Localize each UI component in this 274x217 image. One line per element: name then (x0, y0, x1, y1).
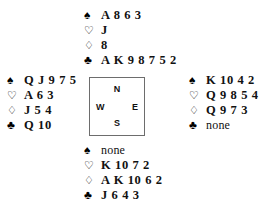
heart-icon: ♡ (7, 88, 20, 103)
west-clubs-cards: Q 10 (20, 118, 52, 133)
west-spades-cards: Q J 9 7 5 (20, 73, 77, 88)
diamond-icon: ♢ (84, 173, 97, 188)
hand-east: ♠ K 10 4 2 ♡ Q 9 8 5 4 ♢ Q 9 7 3 ♣ none (189, 73, 259, 133)
west-hearts-cards: A 6 3 (20, 88, 54, 103)
south-diamonds-cards: A K 10 6 2 (97, 173, 163, 188)
south-diamonds-row: ♢ A K 10 6 2 (84, 173, 163, 188)
east-diamonds-row: ♢ Q 9 7 3 (189, 103, 259, 118)
north-hearts-cards: J (97, 23, 108, 38)
hand-north: ♠ A 8 6 3 ♡ J ♢ 8 ♣ A K 9 8 7 5 2 (84, 8, 177, 68)
diamond-icon: ♢ (7, 103, 20, 118)
club-icon: ♣ (189, 118, 202, 133)
east-spades-cards: K 10 4 2 (202, 73, 255, 88)
heart-icon: ♡ (189, 88, 202, 103)
compass-label-north: N (114, 85, 121, 94)
east-clubs-cards: none (202, 118, 230, 133)
spade-icon: ♠ (84, 143, 97, 158)
heart-icon: ♡ (84, 23, 97, 38)
west-hearts-row: ♡ A 6 3 (7, 88, 77, 103)
east-hearts-cards: Q 9 8 5 4 (202, 88, 259, 103)
club-icon: ♣ (7, 118, 20, 133)
east-diamonds-cards: Q 9 7 3 (202, 103, 248, 118)
west-diamonds-cards: J 5 4 (20, 103, 52, 118)
north-clubs-cards: A K 9 8 7 5 2 (97, 53, 177, 68)
north-spades-row: ♠ A 8 6 3 (84, 8, 177, 23)
spade-icon: ♠ (84, 8, 97, 23)
east-clubs-row: ♣ none (189, 118, 259, 133)
compass-label-south: S (114, 119, 120, 128)
club-icon: ♣ (84, 53, 97, 68)
hand-west: ♠ Q J 9 7 5 ♡ A 6 3 ♢ J 5 4 ♣ Q 10 (7, 73, 77, 133)
spade-icon: ♠ (189, 73, 202, 88)
diamond-icon: ♢ (189, 103, 202, 118)
north-spades-cards: A 8 6 3 (97, 8, 142, 23)
club-icon: ♣ (84, 188, 97, 203)
south-spades-cards: none (97, 143, 125, 158)
bridge-hand-diagram: { "diagram": { "title": "Bridge deal dia… (0, 0, 274, 217)
north-hearts-row: ♡ J (84, 23, 177, 38)
west-clubs-row: ♣ Q 10 (7, 118, 77, 133)
north-clubs-row: ♣ A K 9 8 7 5 2 (84, 53, 177, 68)
south-clubs-row: ♣ J 6 4 3 (84, 188, 163, 203)
west-diamonds-row: ♢ J 5 4 (7, 103, 77, 118)
compass-box: N W E S (89, 77, 145, 136)
north-diamonds-row: ♢ 8 (84, 38, 177, 53)
heart-icon: ♡ (84, 158, 97, 173)
south-clubs-cards: J 6 4 3 (97, 188, 140, 203)
east-hearts-row: ♡ Q 9 8 5 4 (189, 88, 259, 103)
west-spades-row: ♠ Q J 9 7 5 (7, 73, 77, 88)
north-diamonds-cards: 8 (97, 38, 108, 53)
diamond-icon: ♢ (84, 38, 97, 53)
spade-icon: ♠ (7, 73, 20, 88)
south-spades-row: ♠ none (84, 143, 163, 158)
east-spades-row: ♠ K 10 4 2 (189, 73, 259, 88)
hand-south: ♠ none ♡ K 10 7 2 ♢ A K 10 6 2 ♣ J 6 4 3 (84, 143, 163, 203)
compass-label-east: E (132, 102, 138, 111)
compass-label-west: W (96, 102, 105, 111)
south-hearts-row: ♡ K 10 7 2 (84, 158, 163, 173)
south-hearts-cards: K 10 7 2 (97, 158, 150, 173)
